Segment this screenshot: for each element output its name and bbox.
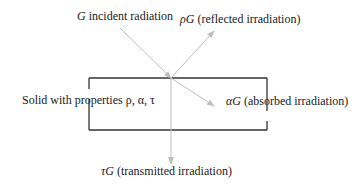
reflected-symbol: ρG [180,12,194,26]
reflected-irradiation-label: ρG (reflected irradiation) [180,12,300,26]
absorbed-irradiation-arrow [171,78,214,106]
incident-symbol: G [77,9,86,23]
incident-radiation-arrow [120,28,171,78]
absorbed-irradiation-label: αG (absorbed irradiation) [226,94,348,108]
solid-properties-label: Solid with properties ρ, α, τ [22,93,155,107]
solid-text: Solid with properties ρ, α, τ [22,93,155,107]
reflected-text: (reflected irradiation) [194,12,300,26]
transmitted-symbol: τG [101,164,114,178]
reflected-irradiation-arrow [171,31,214,78]
incident-radiation-label: G incident radiation [77,9,173,23]
absorbed-text: (absorbed irradiation) [241,94,348,108]
absorbed-symbol: αG [226,94,241,108]
transmitted-text: (transmitted irradiation) [114,164,232,178]
incident-text: incident radiation [86,9,173,23]
transmitted-irradiation-label: τG (transmitted irradiation) [101,164,232,178]
